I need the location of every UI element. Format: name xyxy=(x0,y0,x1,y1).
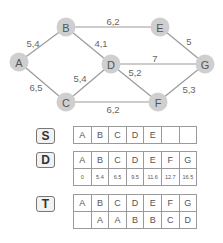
t-header-cell: A xyxy=(74,195,92,212)
d-header-cell: B xyxy=(91,152,109,169)
edge-weight-label: 5 xyxy=(186,36,191,47)
edge-weight-label: 6,2 xyxy=(106,16,119,27)
svg-text:B: B xyxy=(62,22,69,34)
edge-c-f: 6,2 xyxy=(66,102,158,115)
edge-weight-label: 5,4 xyxy=(26,38,39,49)
array-s-table: A B C D E xyxy=(73,126,197,144)
d-value-cell: 6.5 xyxy=(109,169,127,186)
svg-text:E: E xyxy=(156,22,163,34)
t-value-cell: D xyxy=(179,212,197,229)
array-label-t: T xyxy=(36,196,55,212)
t-header-cell: B xyxy=(91,195,109,212)
t-value-cell: A xyxy=(91,212,109,229)
d-value-cell: 16.5 xyxy=(179,169,197,186)
t-header-cell: F xyxy=(161,195,179,212)
d-value-cell: 5.4 xyxy=(91,169,109,186)
svg-text:F: F xyxy=(155,97,162,109)
d-value-cell: 12.7 xyxy=(161,169,179,186)
edge-b-e: 6,2 xyxy=(66,16,160,27)
weighted-graph: 5,46,56,24,15,475,26,255,3ABCDEFG xyxy=(0,0,223,120)
t-value-cell xyxy=(74,212,92,229)
t-header-cell: C xyxy=(109,195,127,212)
array-d-table: A B C D E F G 0 5.4 6.5 9.5 11.6 12.7 16… xyxy=(73,151,197,186)
svg-text:D: D xyxy=(107,59,115,71)
t-value-cell: B xyxy=(144,212,162,229)
d-value-cell: 11.6 xyxy=(144,169,162,186)
s-cell xyxy=(179,127,197,144)
node-c: C xyxy=(57,93,76,112)
node-e: E xyxy=(151,18,170,37)
d-value-cell: 0 xyxy=(74,169,92,186)
s-cell: E xyxy=(144,127,162,144)
array-label-d: D xyxy=(36,152,55,168)
edge-weight-label: 5,4 xyxy=(73,73,86,84)
edge-weight-label: 6,5 xyxy=(29,82,42,93)
array-label-s: S xyxy=(36,128,55,144)
t-value-cell: B xyxy=(126,212,144,229)
d-value-cell: 9.5 xyxy=(126,169,144,186)
d-header-cell: D xyxy=(126,152,144,169)
t-header-cell: E xyxy=(144,195,162,212)
node-b: B xyxy=(57,18,76,37)
edge-weight-label: 4,1 xyxy=(94,38,107,49)
edge-weight-label: 5,2 xyxy=(128,67,141,78)
d-header-cell: G xyxy=(179,152,197,169)
d-header-cell: E xyxy=(144,152,162,169)
edge-d-g: 7 xyxy=(111,53,205,64)
svg-text:C: C xyxy=(62,97,70,109)
s-cell xyxy=(161,127,179,144)
node-f: F xyxy=(149,93,168,112)
edge-weight-label: 5,3 xyxy=(182,84,195,95)
node-d: D xyxy=(102,55,121,74)
node-g: G xyxy=(196,55,215,74)
node-a: A xyxy=(10,53,29,72)
s-cell: C xyxy=(109,127,127,144)
svg-text:A: A xyxy=(15,57,23,69)
d-header-cell: C xyxy=(109,152,127,169)
t-value-cell: A xyxy=(109,212,127,229)
s-cell: D xyxy=(126,127,144,144)
array-t-table: A B C D E F G A A B B C D xyxy=(73,194,197,229)
s-cell: A xyxy=(74,127,92,144)
d-header-cell: F xyxy=(161,152,179,169)
edge-weight-label: 6,2 xyxy=(106,104,119,115)
svg-text:G: G xyxy=(201,59,210,71)
s-cell: B xyxy=(91,127,109,144)
t-header-cell: D xyxy=(126,195,144,212)
t-value-cell: C xyxy=(161,212,179,229)
edge-weight-label: 7 xyxy=(152,53,157,64)
t-header-cell: G xyxy=(179,195,197,212)
d-header-cell: A xyxy=(74,152,92,169)
